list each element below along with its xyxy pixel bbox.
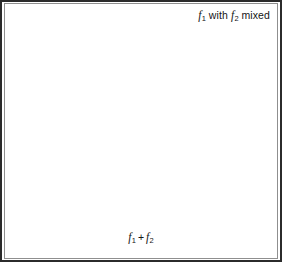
waveform-figure: f1 with f2 mixed f1+f2 [0,0,282,262]
top-label-symbol-1: f [198,9,201,21]
bottom-label-symbol-2: f [146,231,149,243]
bottom-label-sub-2: 2 [150,236,154,245]
bottom-panel-label: f1+f2 [0,232,282,244]
top-panel-group [8,31,274,109]
waveform-plot-canvas [0,0,282,262]
top-label-sub-2: 2 [234,14,238,23]
bottom-label-operator: + [136,231,146,243]
bottom-panel-group [8,131,274,221]
top-label-trailing: mixed [238,9,270,21]
bottom-label-sub-1: 1 [132,236,136,245]
top-wave-f2-trace [12,31,272,109]
top-label-sub-1: 1 [202,14,206,23]
top-panel-label: f1 with f2 mixed [198,10,270,22]
top-label-middle: with [206,9,231,21]
